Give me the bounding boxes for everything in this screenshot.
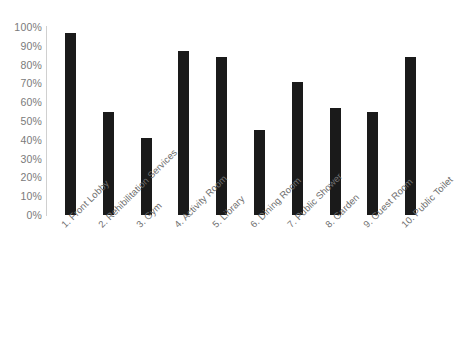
y-axis-tick-label: 90%: [0, 40, 42, 52]
bar[interactable]: [330, 108, 341, 215]
y-axis-tick-label: 60%: [0, 96, 42, 108]
bar[interactable]: [254, 130, 265, 215]
bar[interactable]: [103, 112, 114, 215]
bar[interactable]: [141, 138, 152, 215]
bar[interactable]: [216, 57, 227, 215]
bar[interactable]: [367, 112, 378, 215]
y-axis-tick-label: 40%: [0, 134, 42, 146]
y-axis-tick-label: 10%: [0, 190, 42, 202]
y-axis-tick-label: 50%: [0, 115, 42, 127]
plot-area: [47, 27, 425, 215]
bar[interactable]: [65, 33, 76, 215]
y-axis-tick-label: 100%: [0, 21, 42, 33]
y-axis-tick-labels: 100%90%80%70%60%50%40%30%20%10%0%: [0, 0, 42, 341]
y-axis-tick-label: 80%: [0, 59, 42, 71]
bar[interactable]: [405, 57, 416, 215]
y-axis-tick-label: 70%: [0, 77, 42, 89]
y-axis-tick-label: 30%: [0, 153, 42, 165]
bar[interactable]: [178, 51, 189, 215]
y-axis-tick-label: 0%: [0, 209, 42, 221]
y-axis-tick-label: 20%: [0, 171, 42, 183]
bar[interactable]: [292, 82, 303, 215]
